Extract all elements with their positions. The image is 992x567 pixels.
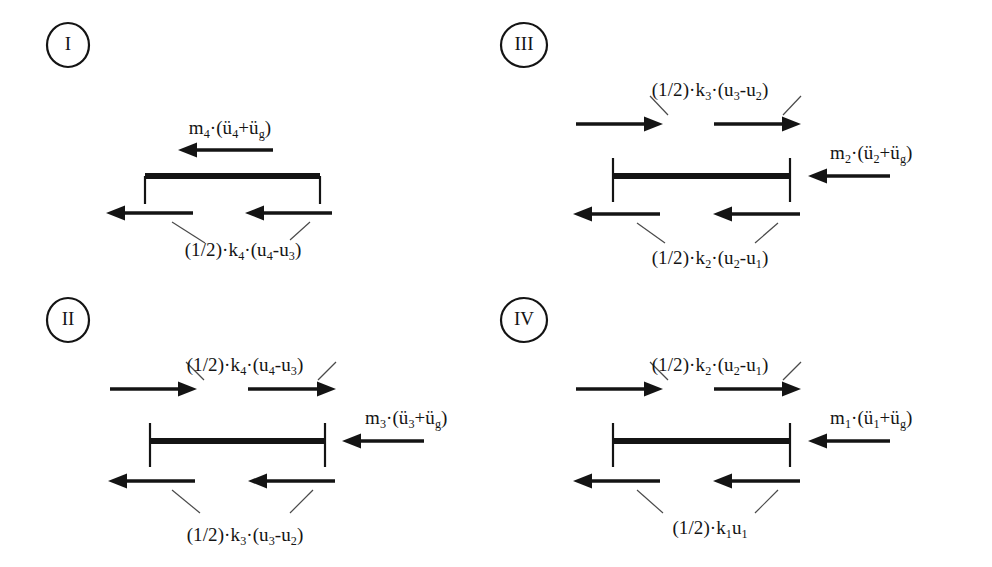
panel-marker-label-III: III (515, 33, 534, 54)
spring-force-label-panel-4-bottom: (1/2)·k1u1 (672, 518, 747, 540)
leader-line-panel-3-bottom-1 (755, 223, 778, 243)
leader-line-panel-3-top-1 (783, 96, 801, 115)
inertia-force-label-panel-2: m3·(ü3+üg) (365, 408, 447, 430)
spring-arrow-panel-3-bottom-1-head (713, 207, 732, 222)
inertia-arrow-panel-1-head (178, 143, 197, 158)
spring-arrow-panel-3-top-1-head (782, 117, 801, 132)
spring-arrow-panel-4-bottom-1-head (713, 474, 732, 489)
spring-force-label-panel-2-bottom: (1/2)·k3·(u3-u2) (187, 525, 304, 547)
spring-arrow-panel-4-top-1-head (782, 382, 801, 397)
leader-line-panel-4-bottom-1 (755, 490, 778, 513)
spring-arrow-panel-1-bottom-1-head (245, 206, 264, 221)
free-body-diagram-figure: IIIIIIIV m4·(ü4+üg)(1/2)·k4·(u4-u3)m3·(ü… (0, 0, 992, 567)
panel-marker-label-I: I (65, 33, 71, 54)
spring-force-label-panel-1-bottom: (1/2)·k4·(u4-u3) (185, 240, 302, 262)
beam-panel-3 (613, 173, 790, 179)
spring-force-label-panel-3-top: (1/2)·k3·(u3-u2) (652, 80, 769, 102)
inertia-force-label-panel-4: m1·(ü1+üg) (830, 408, 912, 430)
leader-line-panel-1-bottom-1 (290, 222, 310, 240)
spring-arrow-panel-2-bottom-0-head (108, 474, 127, 489)
inertia-arrow-panel-4-head (808, 434, 827, 449)
spring-arrow-panel-2-top-1-head (317, 382, 336, 397)
inertia-arrow-panel-2-head (342, 434, 361, 449)
spring-arrow-panel-1-bottom-0-head (106, 206, 125, 221)
spring-force-label-panel-2-top: (1/2)·k4·(u4-u3) (187, 355, 304, 377)
spring-arrow-panel-4-top-0-head (644, 382, 663, 397)
panel-marker-label-II: II (62, 308, 75, 329)
spring-arrow-panel-3-bottom-0-head (573, 207, 592, 222)
spring-arrow-panel-2-top-0-head (178, 382, 197, 397)
inertia-force-label-panel-1: m4·(ü4+üg) (189, 118, 271, 140)
leader-line-panel-3-bottom-0 (637, 223, 665, 243)
beam-panel-2 (150, 438, 325, 444)
panel-marker-label-IV: IV (514, 308, 534, 329)
spring-force-label-panel-3-bottom: (1/2)·k2·(u2-u1) (652, 248, 769, 270)
inertia-arrow-panel-3-head (808, 169, 827, 184)
spring-arrow-panel-3-top-0-head (644, 117, 663, 132)
spring-force-label-panel-4-top: (1/2)·k2·(u2-u1) (652, 355, 769, 377)
leader-line-panel-2-bottom-1 (290, 490, 313, 513)
leader-line-panel-2-bottom-0 (172, 490, 200, 513)
spring-arrow-panel-2-bottom-1-head (248, 474, 267, 489)
spring-arrow-panel-4-bottom-0-head (573, 474, 592, 489)
leader-line-panel-4-bottom-0 (637, 490, 663, 513)
diagram-canvas: IIIIIIIV (0, 0, 992, 567)
leader-line-panel-4-top-1 (783, 362, 801, 380)
beam-panel-1 (145, 173, 320, 179)
leader-line-panel-2-top-1 (318, 362, 336, 380)
inertia-force-label-panel-3: m2·(ü2+üg) (830, 143, 912, 165)
beam-panel-4 (613, 438, 790, 444)
